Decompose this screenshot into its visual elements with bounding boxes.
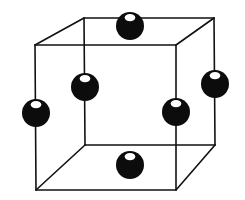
atom-highlight-icon	[31, 101, 42, 108]
atom-highlight-icon	[210, 72, 221, 79]
cube-edge-front-top-left-to-back-top-left	[35, 18, 84, 45]
atom-back-face	[71, 73, 99, 101]
atom-highlight-icon	[125, 14, 136, 21]
cube-edge-front-bottom-left-to-back-bottom-left	[36, 145, 85, 190]
unit-cell-diagram	[0, 0, 245, 200]
atom-front-face	[162, 98, 190, 126]
atom-highlight-icon	[125, 153, 136, 160]
atom-right-face	[201, 70, 229, 98]
atom-bottom-face	[116, 151, 144, 179]
atom-top-face	[116, 12, 144, 40]
face-center-atoms	[22, 12, 229, 179]
atom-left-face	[22, 99, 50, 127]
cube-edge-front-top-right-to-back-top-right	[176, 18, 214, 45]
atom-highlight-icon	[80, 75, 91, 82]
cube-edge-front-bottom-right-to-back-bottom-right	[176, 145, 215, 190]
atom-highlight-icon	[171, 100, 182, 107]
